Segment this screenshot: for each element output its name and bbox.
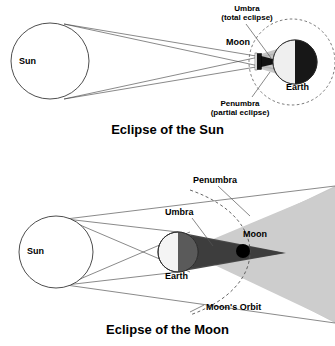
- orbit-leader-lunar: [190, 305, 204, 312]
- solar-eclipse-diagram: [11, 19, 335, 105]
- earth-body-solar: [273, 40, 317, 84]
- caption-eclipse-of-the-sun: Eclipse of the Sun: [0, 122, 335, 137]
- penumbra-leader-lunar: [218, 186, 250, 216]
- label-penumbra-partial-eclipse-solar: Penumbra (partial eclipse): [211, 99, 270, 117]
- label-sun-lunar: Sun: [27, 247, 44, 256]
- eclipse-diagram-figure: Umbra (total eclipse) Sun Moon Earth Pen…: [0, 0, 335, 346]
- umbra-label-line1: Umbra: [234, 4, 259, 13]
- label-umbra-total-eclipse-solar: Umbra (total eclipse): [221, 4, 273, 22]
- penumbra-leader-solar: [252, 72, 270, 97]
- label-moons-orbit-lunar: Moon's Orbit: [206, 303, 261, 312]
- label-earth-lunar: Earth: [165, 272, 188, 281]
- label-umbra-lunar: Umbra: [165, 208, 194, 217]
- caption-eclipse-of-the-moon: Eclipse of the Moon: [0, 322, 335, 337]
- umbra-label-line2: (total eclipse): [221, 13, 273, 22]
- moon-body-solar: [257, 54, 262, 70]
- label-moon-lunar: Moon: [243, 230, 267, 239]
- label-sun-solar: Sun: [19, 57, 36, 66]
- earth-body-lunar: [158, 232, 198, 272]
- penumbra-label-line1: Penumbra: [220, 99, 259, 108]
- label-penumbra-lunar: Penumbra: [193, 176, 237, 185]
- label-earth-solar: Earth: [286, 83, 309, 92]
- eclipse-diagram-canvas: [0, 0, 335, 346]
- moon-body-lunar: [236, 244, 250, 258]
- label-moon-solar: Moon: [226, 38, 250, 47]
- penumbra-label-line2: (partial eclipse): [211, 108, 270, 117]
- sunlight-rays-solar: [64, 24, 283, 99]
